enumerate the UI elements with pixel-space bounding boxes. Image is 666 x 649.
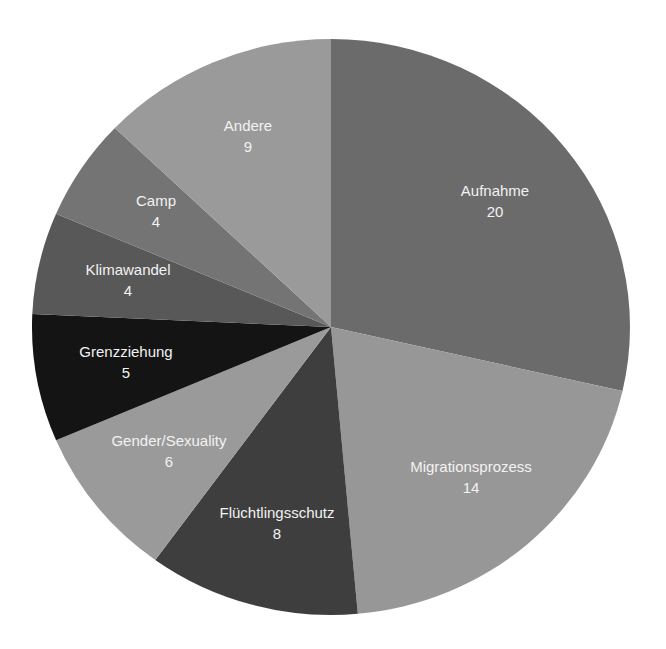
slice-value: 8	[273, 525, 281, 542]
slice-value: 4	[124, 282, 132, 299]
slice-value: 14	[463, 479, 480, 496]
slice-value: 4	[152, 213, 160, 230]
slice-name: Klimawandel	[85, 261, 170, 278]
pie-chart: Aufnahme20Migrationsprozess14Flüchtlings…	[0, 0, 666, 649]
slice-name: Andere	[224, 117, 272, 134]
slice-name: Grenzziehung	[79, 343, 172, 360]
slice-value: 6	[165, 453, 173, 470]
slice-name: Migrationsprozess	[410, 458, 532, 475]
pie-slices	[32, 39, 630, 615]
slice-value: 5	[122, 364, 130, 381]
slice-value: 9	[244, 138, 252, 155]
slice-name: Flüchtlingsschutz	[219, 504, 334, 521]
slice-name: Camp	[136, 192, 176, 209]
slice-name: Aufnahme	[461, 182, 529, 199]
slice-name: Gender/Sexuality	[111, 432, 227, 449]
slice-value: 20	[487, 203, 504, 220]
